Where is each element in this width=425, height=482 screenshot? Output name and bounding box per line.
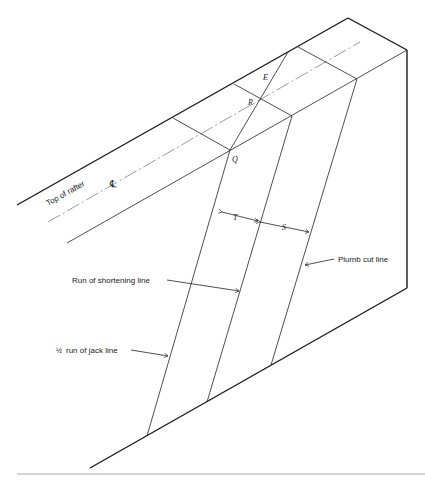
- plumb-cut-line: [271, 79, 357, 365]
- rafter-end-top-edge: [348, 18, 407, 50]
- half-run-of-jack-line: [147, 150, 230, 436]
- centerline-symbol: ℄: [109, 178, 117, 189]
- cross-line-2: [234, 84, 292, 116]
- top-of-rafter-label: Top of rafter: [45, 179, 87, 208]
- rafter-bottom-edge: [90, 288, 407, 468]
- leader-shortening: [167, 280, 239, 291]
- run-of-shortening-line: [207, 116, 292, 402]
- dimension-t-label: T: [233, 213, 238, 222]
- point-r-label: R: [247, 98, 253, 107]
- rafter-diagram: E R Q T S Top of rafter ℄ Run of shorten…: [0, 0, 425, 482]
- leader-half-run: [131, 350, 168, 356]
- dimension-s-label: S: [282, 223, 286, 232]
- leader-plumb-cut: [305, 259, 334, 265]
- dimension-t-arrow: [222, 212, 258, 221]
- centerline: [48, 42, 360, 222]
- run-of-shortening-line-label: Run of shortening line: [72, 276, 150, 285]
- plumb-cut-line-label: Plumb cut line: [338, 255, 389, 264]
- point-q-label: Q: [232, 155, 238, 164]
- half-fraction-label: ½: [56, 347, 62, 354]
- half-run-of-jack-line-label: run of jack line: [66, 346, 118, 355]
- edge-line-q-e: [230, 52, 288, 150]
- cross-line-3: [298, 47, 357, 79]
- point-e-label: E: [262, 73, 268, 82]
